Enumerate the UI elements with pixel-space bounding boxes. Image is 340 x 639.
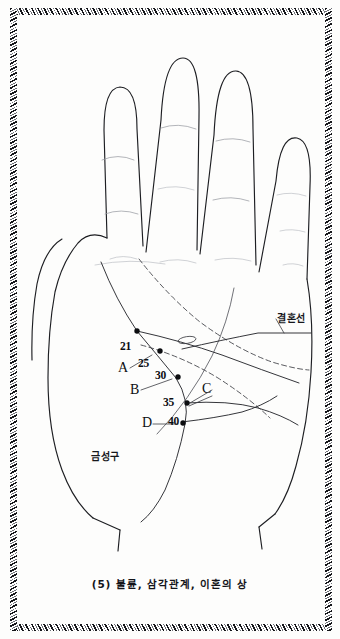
middle-crease-mid xyxy=(158,187,194,190)
branch-label-b: B xyxy=(130,382,139,398)
age-label-25: 25 xyxy=(138,357,149,369)
age-label-21: 21 xyxy=(120,340,131,352)
index-crease-lower xyxy=(105,211,138,214)
age-dot-25 xyxy=(157,348,162,353)
ring-crease-mid xyxy=(213,198,249,201)
branch-label-a: A xyxy=(118,360,128,376)
index-crease-upper xyxy=(102,157,134,161)
little-finger-outline xyxy=(259,138,310,279)
little-crease-mid xyxy=(280,230,305,232)
age-dot-21 xyxy=(134,328,139,333)
island-marking xyxy=(178,335,197,345)
thumb-inner-edge xyxy=(32,239,62,360)
age-dot-35 xyxy=(184,400,189,405)
wrist-right xyxy=(259,514,275,527)
little-crease-upper xyxy=(277,193,306,196)
leader-line-c2 xyxy=(189,396,212,406)
index-crease-base xyxy=(110,257,137,260)
life-line xyxy=(101,262,186,522)
ring-crease-upper xyxy=(216,139,250,142)
marriage-line xyxy=(182,333,311,349)
ring-crease-base xyxy=(215,258,251,261)
middle-crease-upper xyxy=(161,125,196,129)
mount-of-venus-label: 금성구 xyxy=(91,448,120,463)
age-label-30: 30 xyxy=(155,369,166,381)
age-dot-40 xyxy=(180,420,185,425)
age-label-35: 35 xyxy=(163,396,174,408)
age-label-40: 40 xyxy=(168,415,179,427)
middle-crease-base xyxy=(160,260,196,263)
little-crease-base xyxy=(283,264,303,266)
index-finger-outline xyxy=(104,87,143,246)
wrist-left xyxy=(93,518,120,530)
wrist-tick-right xyxy=(259,527,262,549)
ring-finger-outline xyxy=(200,71,256,265)
marriage-line-label: 결혼선 xyxy=(277,310,306,325)
branch-line-c xyxy=(186,402,298,425)
branch-label-d: D xyxy=(142,415,152,431)
branch-label-c: C xyxy=(202,381,211,397)
figure-page: 21 25 30 35 40 A B C D 결혼선 금성구 (5) 불륜, 삼… xyxy=(0,0,340,639)
middle-finger-outline xyxy=(146,58,199,252)
figure-caption: (5) 불륜, 삼각관계, 이혼의 상 xyxy=(0,576,340,591)
thumb-outline xyxy=(48,235,107,518)
wrist-tick-left xyxy=(118,530,120,551)
palm-top-crease xyxy=(95,261,165,265)
fate-line xyxy=(157,288,234,434)
age-dot-30 xyxy=(175,374,180,379)
